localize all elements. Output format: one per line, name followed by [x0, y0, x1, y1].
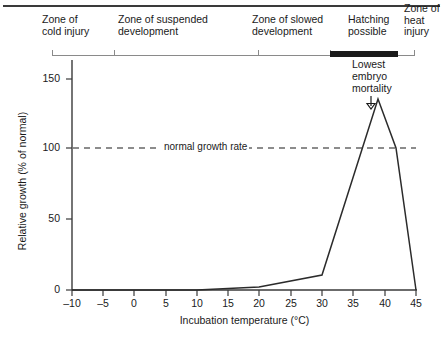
- normal-growth-rate-label: normal growth rate: [162, 141, 249, 152]
- x-tick-label-25: 25: [274, 297, 308, 309]
- temperature-growth-figure: Zone of cold injury Zone of suspended de…: [0, 0, 444, 340]
- x-tick-label-40: 40: [368, 297, 402, 309]
- x-tick-label-20: 20: [242, 297, 276, 309]
- x-tick-label-minus5: –5: [86, 297, 120, 309]
- x-tick-label-5: 5: [149, 297, 183, 309]
- x-tick-label-minus10: –10: [55, 297, 89, 309]
- x-tick-label-30: 30: [305, 297, 339, 309]
- y-tick-label-0: 0: [20, 283, 60, 295]
- x-tick-label-35: 35: [336, 297, 370, 309]
- x-tick-label-0: 0: [117, 297, 151, 309]
- growth-curve-plot: [0, 0, 444, 340]
- x-tick-label-45: 45: [399, 297, 433, 309]
- x-tick-label-15: 15: [211, 297, 245, 309]
- y-axis-title: Relative growth (% of normal): [16, 81, 28, 281]
- x-axis-title: Incubation temperature (°C): [72, 314, 417, 326]
- x-tick-label-10: 10: [180, 297, 214, 309]
- growth-curve-line: [72, 99, 416, 290]
